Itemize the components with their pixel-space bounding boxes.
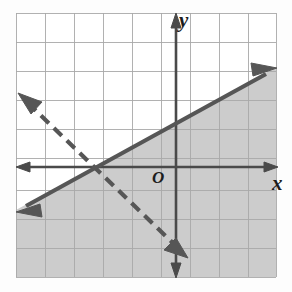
- coordinate-plane-svg: [0, 0, 292, 292]
- y-axis-label: y: [179, 8, 188, 33]
- origin-label: O: [152, 168, 164, 188]
- x-axis-label: x: [272, 171, 283, 196]
- graph-figure: y x O: [0, 0, 292, 292]
